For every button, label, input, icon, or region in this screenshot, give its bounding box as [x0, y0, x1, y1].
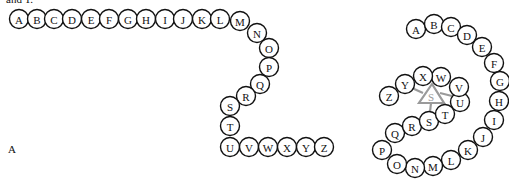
right-bead-e: E — [473, 38, 492, 57]
left-bead-m: M — [231, 12, 250, 31]
right-bead-h: H — [490, 92, 509, 111]
bead-label: G — [496, 76, 504, 88]
left-bead-d: D — [63, 10, 82, 29]
right-bead-l: L — [442, 151, 461, 170]
bead-label: A — [15, 14, 23, 26]
bead-label: O — [393, 159, 401, 171]
right-bead-y: Y — [396, 75, 415, 94]
binding-site-label: S — [428, 91, 434, 103]
right-bead-g: G — [491, 72, 509, 91]
bead-label: U — [226, 142, 234, 154]
protein-folding-diagram: and T. ABCDEFGHIJKLMNOPQRSTUVWXYZ S ABCD… — [0, 0, 509, 181]
bead-label: K — [198, 14, 206, 26]
left-bead-c: C — [45, 10, 64, 29]
right-bead-b: B — [425, 15, 444, 34]
bead-label: H — [495, 96, 503, 108]
bead-label: U — [456, 97, 464, 109]
right-bead-j: J — [474, 128, 493, 147]
bead-label: M — [235, 16, 245, 28]
bead-label: J — [481, 132, 486, 144]
right-bead-k: K — [459, 141, 478, 160]
left-bead-k: K — [193, 10, 212, 29]
unfolded-chain: ABCDEFGHIJKLMNOPQRSTUVWXYZ — [10, 10, 334, 157]
left-bead-y: Y — [297, 138, 316, 157]
bead-label: E — [479, 42, 486, 54]
bead-label: N — [253, 28, 261, 40]
bead-label: R — [408, 121, 416, 133]
right-bead-i: I — [485, 111, 504, 130]
left-bead-l: L — [211, 10, 230, 29]
right-bead-n: N — [406, 159, 425, 178]
left-bead-v: V — [240, 138, 259, 157]
right-bead-v: V — [450, 78, 469, 97]
right-bead-f: F — [485, 54, 504, 73]
left-bead-x: X — [278, 138, 297, 157]
bead-label: T — [442, 109, 449, 121]
left-bead-g: G — [119, 10, 138, 29]
bead-label: L — [448, 155, 455, 167]
bead-label: N — [411, 163, 419, 175]
left-bead-a: A — [10, 10, 29, 29]
bead-label: V — [245, 142, 253, 154]
bead-label: Q — [391, 128, 399, 140]
right-bead-r: R — [403, 117, 422, 136]
left-bead-f: F — [100, 10, 119, 29]
bead-label: E — [88, 14, 95, 26]
clipped-caption-text: and T. — [6, 0, 33, 5]
right-bead-m: M — [424, 157, 443, 176]
bead-label: P — [379, 145, 385, 157]
left-bead-t: T — [221, 117, 240, 136]
bead-label: Y — [302, 142, 310, 154]
left-bead-o: O — [260, 39, 279, 58]
bead-label: Q — [256, 79, 264, 91]
left-bead-w: W — [259, 138, 278, 157]
right-bead-o: O — [388, 155, 407, 174]
bead-label: Z — [321, 142, 328, 154]
bead-label: F — [106, 14, 112, 26]
bead-label: T — [227, 121, 234, 133]
left-bead-b: B — [28, 10, 47, 29]
bead-label: O — [265, 43, 273, 55]
bead-label: Z — [386, 91, 393, 103]
bead-label: D — [463, 30, 471, 42]
right-bead-x: X — [414, 67, 433, 86]
bead-label: B — [430, 19, 437, 31]
bead-label: Y — [401, 79, 409, 91]
bead-label: G — [124, 14, 132, 26]
left-bead-i: I — [156, 10, 175, 29]
bead-label: D — [68, 14, 76, 26]
bead-label: W — [436, 72, 447, 84]
bead-label: S — [426, 116, 432, 128]
right-bead-q: Q — [386, 124, 405, 143]
right-bead-a: A — [407, 20, 426, 39]
bead-label: S — [227, 101, 233, 113]
bead-label: C — [447, 22, 454, 34]
left-bead-e: E — [82, 10, 101, 29]
left-bead-p: P — [260, 58, 279, 77]
bead-label: L — [217, 14, 224, 26]
bead-label: X — [283, 142, 291, 154]
left-bead-h: H — [137, 10, 156, 29]
bead-label: B — [33, 14, 40, 26]
site-link-to-u — [440, 93, 452, 96]
panel-label: A — [8, 143, 16, 155]
bead-label: I — [492, 115, 496, 127]
left-bead-z: Z — [315, 138, 334, 157]
right-bead-z: Z — [380, 87, 399, 106]
right-bead-w: W — [432, 68, 451, 87]
right-bead-p: P — [373, 141, 392, 160]
bead-label: X — [419, 71, 427, 83]
bead-label: K — [464, 145, 472, 157]
bead-label: F — [491, 58, 497, 70]
left-bead-s: S — [221, 97, 240, 116]
bead-label: A — [412, 24, 420, 36]
bead-label: M — [428, 161, 438, 173]
bead-label: I — [163, 14, 167, 26]
left-bead-u: U — [221, 138, 240, 157]
bead-label: V — [455, 82, 463, 94]
bead-label: J — [181, 14, 186, 26]
bead-label: P — [266, 62, 272, 74]
bead-label: W — [263, 142, 274, 154]
bead-label: C — [50, 14, 57, 26]
bead-label: R — [242, 91, 250, 103]
